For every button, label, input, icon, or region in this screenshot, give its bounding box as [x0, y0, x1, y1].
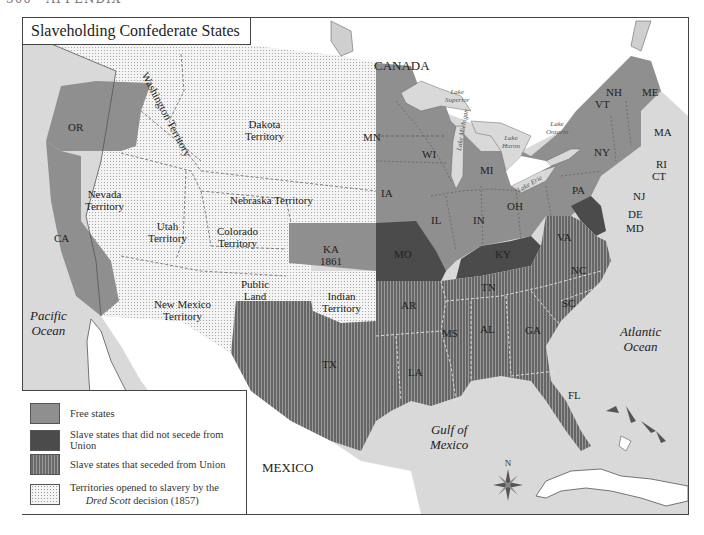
label-nj: NJ: [633, 190, 645, 202]
label-canada: CANADA: [374, 60, 430, 72]
label-ga: GA: [525, 324, 541, 336]
label-vt: VT: [595, 98, 610, 110]
label-fl: FL: [568, 389, 581, 401]
label-dakota-territory: DakotaTerritory: [245, 118, 284, 142]
label-de: DE: [628, 208, 643, 220]
label-utah-territory: UtahTerritory: [148, 220, 187, 244]
legend-item-seceded: Slave states that seceded from Union: [30, 454, 225, 475]
label-mexico: MEXICO: [262, 462, 313, 474]
label-tn: TN: [481, 281, 496, 293]
label-la: LA: [408, 366, 423, 378]
legend-item-no-secede: Slave states that did not secede from Un…: [30, 429, 246, 451]
label-indian-territory: IndianTerritory: [322, 290, 361, 314]
label-md: MD: [626, 222, 644, 234]
label-oh: OH: [507, 200, 523, 212]
label-lake-ontario: LakeOntario: [546, 120, 568, 136]
label-atlantic-ocean: AtlanticOcean: [620, 324, 661, 354]
territory-swatch: [30, 484, 60, 505]
label-ms: MS: [442, 327, 458, 339]
svg-text:N: N: [505, 458, 512, 468]
label-ma: MA: [654, 126, 672, 138]
label-va: VA: [557, 231, 571, 243]
label-nevada-territory: NevadaTerritory: [85, 188, 124, 212]
label-tx: TX: [322, 358, 337, 370]
label-mi: MI: [480, 164, 493, 176]
label-il: IL: [431, 214, 441, 226]
seceded-swatch: [30, 454, 60, 475]
label-al: AL: [480, 323, 495, 335]
label-me: ME: [642, 86, 659, 98]
cuba: [536, 469, 688, 506]
label-ct: CT: [652, 170, 666, 182]
label-nebraska-territory: Nebraska Territory: [230, 194, 313, 206]
map-legend: Free states Slave states that did not se…: [22, 390, 247, 514]
label-lake-superior: LakeSuperior: [445, 88, 470, 104]
label-ca: CA: [54, 232, 69, 244]
compass-rose-icon: N: [488, 458, 528, 503]
label-gulf-of-mexico: Gulf ofMexico: [430, 422, 468, 452]
label-lake-huron: LakeHuron: [502, 134, 520, 150]
label-sc: SC: [562, 297, 575, 309]
free-swatch: [30, 403, 60, 424]
label-colorado-territory: ColoradoTerritory: [217, 225, 258, 249]
label-ky: KY: [495, 248, 511, 260]
label-ia: IA: [381, 187, 393, 199]
label-ny: NY: [594, 146, 610, 158]
label-pa: PA: [572, 184, 585, 196]
legend-item-territory: Territories opened to slavery by the Dre…: [30, 481, 219, 507]
map-title: Slaveholding Confederate States: [22, 17, 251, 45]
label-mn: MN: [363, 131, 381, 143]
label-nh: NH: [606, 86, 622, 98]
state-or: [46, 81, 151, 151]
label-ar: AR: [401, 299, 416, 311]
label-public-land: PublicLand: [241, 278, 269, 302]
label-new-mexico-territory: New MexicoTerritory: [154, 298, 211, 322]
label-mo: MO: [394, 248, 412, 260]
label-nc: NC: [571, 264, 586, 276]
label-wi: WI: [422, 148, 436, 160]
label-or: OR: [68, 121, 83, 133]
label-ka: KA1861: [320, 243, 342, 267]
legend-item-free: Free states: [30, 403, 115, 424]
label-in: IN: [473, 214, 485, 226]
label-ri: RI: [656, 158, 667, 170]
label-pacific-ocean: PacificOcean: [30, 308, 67, 338]
no-secede-swatch: [30, 430, 60, 451]
page-header: 300 · APPENDIX: [6, 0, 121, 6]
